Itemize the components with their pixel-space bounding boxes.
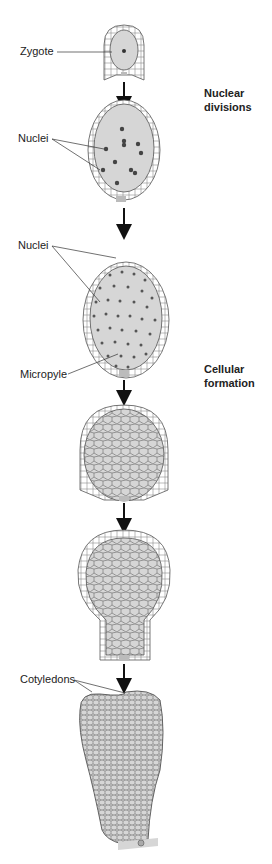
stage-line: Nuclear xyxy=(204,86,272,100)
nuclei-label-1: Nuclei xyxy=(18,132,49,144)
zygote-stage xyxy=(104,25,144,80)
mature-embryo xyxy=(80,691,163,850)
nuclear-division-stage-1 xyxy=(88,100,160,202)
cellular-formation-heading: Cellular formation xyxy=(204,362,272,390)
cotyledons-label: Cotyledons xyxy=(20,673,75,685)
embryo-development-diagram xyxy=(0,0,272,864)
zygote-label: Zygote xyxy=(20,45,54,57)
stage-line: formation xyxy=(204,376,272,390)
nuclei-label-2: Nuclei xyxy=(18,239,49,251)
micropyle-label: Micropyle xyxy=(20,368,67,380)
nuclear-division-stage-2 xyxy=(83,262,169,378)
cellular-formation-stage-2 xyxy=(78,530,170,661)
stage-line: divisions xyxy=(204,100,272,114)
nuclear-divisions-heading: Nuclear divisions xyxy=(204,86,272,114)
stage-line: Cellular xyxy=(204,362,272,376)
cellular-formation-stage-1 xyxy=(80,405,168,501)
